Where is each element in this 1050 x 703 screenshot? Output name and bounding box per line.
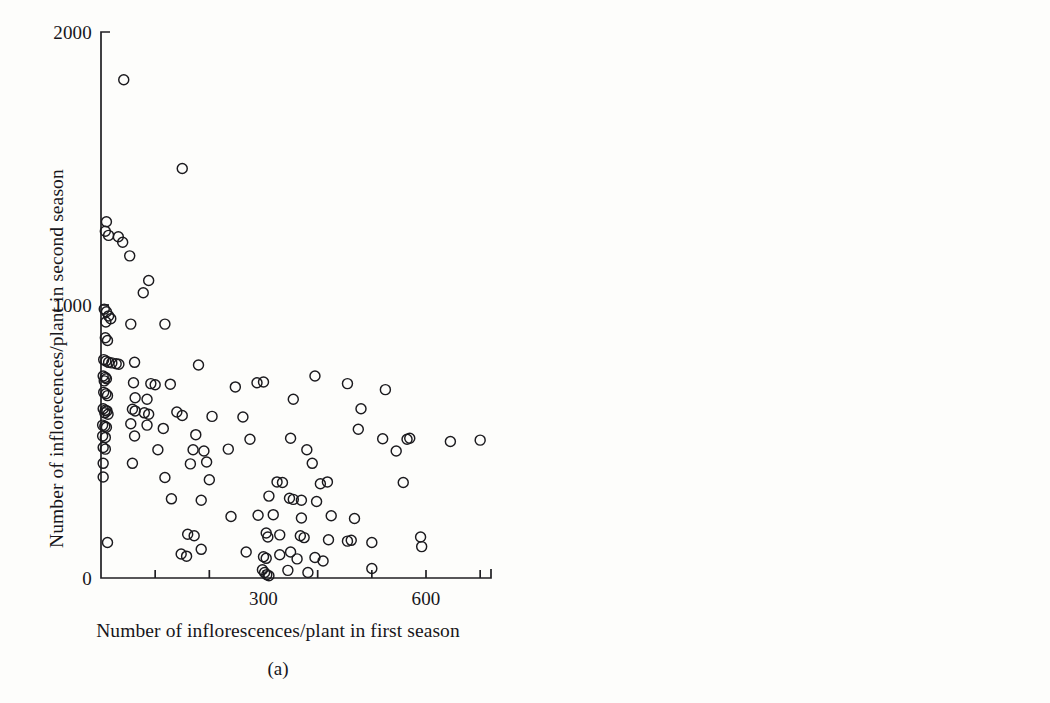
data-point bbox=[226, 512, 236, 522]
plot-a-y-axis-title: Number of inflorecences/plant in second … bbox=[46, 169, 68, 548]
panel-a: 010002000 300600 Number of inflorescence… bbox=[0, 0, 525, 703]
data-point bbox=[261, 553, 271, 563]
data-point bbox=[196, 544, 206, 554]
data-point bbox=[398, 477, 408, 487]
data-point bbox=[350, 513, 360, 523]
data-point bbox=[299, 533, 309, 543]
data-point bbox=[286, 433, 296, 443]
data-point bbox=[185, 459, 195, 469]
data-point bbox=[268, 510, 278, 520]
panel-b: 0204060 300600 Number of inflorecences/p… bbox=[525, 0, 1050, 703]
data-point bbox=[130, 393, 140, 403]
data-point bbox=[98, 472, 108, 482]
data-point bbox=[144, 275, 154, 285]
data-point bbox=[326, 511, 336, 521]
plot-a-y-tick-label: 0 bbox=[82, 569, 92, 588]
data-point bbox=[445, 437, 455, 447]
data-point bbox=[194, 360, 204, 370]
data-point bbox=[160, 319, 170, 329]
plot-a-y-tick-label: 2000 bbox=[53, 23, 92, 42]
data-point bbox=[342, 379, 352, 389]
data-point bbox=[275, 550, 285, 560]
data-point bbox=[191, 430, 201, 440]
plot-a-x-tick-label: 300 bbox=[249, 589, 278, 608]
data-point bbox=[160, 473, 170, 483]
figure-page: 010002000 300600 Number of inflorescence… bbox=[0, 0, 1050, 703]
data-point bbox=[126, 419, 136, 429]
data-point bbox=[130, 406, 140, 416]
data-point bbox=[296, 513, 306, 523]
data-point bbox=[292, 554, 302, 564]
data-point bbox=[322, 477, 332, 487]
data-point bbox=[416, 532, 426, 542]
data-point bbox=[153, 445, 163, 455]
data-point bbox=[259, 377, 269, 387]
data-point bbox=[158, 423, 168, 433]
data-point bbox=[189, 531, 199, 541]
data-point bbox=[177, 164, 187, 174]
panel-a-caption: (a) bbox=[267, 658, 288, 680]
data-point bbox=[391, 446, 401, 456]
data-point bbox=[101, 217, 111, 227]
data-point bbox=[367, 538, 377, 548]
plot-a-x-axis-title: Number of inflorescences/plant in first … bbox=[96, 620, 460, 642]
data-point bbox=[119, 75, 129, 85]
data-point bbox=[310, 371, 320, 381]
data-point bbox=[103, 538, 113, 548]
plot-a-axis-frame bbox=[101, 32, 491, 578]
data-point bbox=[417, 542, 427, 552]
plot-a-svg bbox=[101, 32, 493, 580]
data-point bbox=[230, 382, 240, 392]
data-point bbox=[127, 458, 137, 468]
data-point bbox=[288, 394, 298, 404]
data-point bbox=[303, 568, 313, 578]
data-point bbox=[283, 565, 293, 575]
data-point bbox=[245, 434, 255, 444]
plot-a-x-tick-label: 600 bbox=[411, 589, 440, 608]
data-point bbox=[302, 445, 312, 455]
data-point bbox=[380, 385, 390, 395]
data-point bbox=[125, 251, 135, 261]
data-point bbox=[138, 288, 148, 298]
data-point bbox=[353, 424, 363, 434]
data-point bbox=[142, 420, 152, 430]
data-point bbox=[142, 394, 152, 404]
data-point bbox=[130, 357, 140, 367]
data-point bbox=[318, 556, 328, 566]
data-point bbox=[241, 547, 251, 557]
data-point bbox=[475, 435, 485, 445]
data-point bbox=[202, 457, 212, 467]
data-point bbox=[356, 404, 366, 414]
data-point bbox=[204, 475, 214, 485]
data-point bbox=[165, 379, 175, 389]
plot-a-canvas bbox=[101, 32, 491, 578]
data-point bbox=[324, 535, 334, 545]
data-point bbox=[188, 445, 198, 455]
data-point bbox=[126, 319, 136, 329]
data-point bbox=[238, 412, 248, 422]
data-point bbox=[264, 491, 274, 501]
data-point bbox=[223, 444, 233, 454]
data-point bbox=[312, 497, 322, 507]
data-point bbox=[166, 494, 176, 504]
data-point bbox=[253, 510, 263, 520]
data-point bbox=[378, 434, 388, 444]
data-point bbox=[307, 458, 317, 468]
data-point bbox=[207, 411, 217, 421]
data-point bbox=[129, 378, 139, 388]
data-point bbox=[275, 530, 285, 540]
data-point bbox=[196, 495, 206, 505]
data-point bbox=[103, 335, 113, 345]
data-point bbox=[199, 446, 209, 456]
data-point bbox=[98, 458, 108, 468]
plot-a-data-points bbox=[98, 75, 486, 581]
data-point bbox=[130, 431, 140, 441]
data-point bbox=[315, 479, 325, 489]
